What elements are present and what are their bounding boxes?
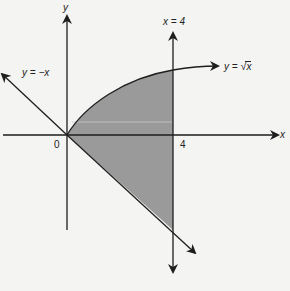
sqrt-label-prefix: y =: [224, 61, 240, 72]
sqrt-curve-label: y = √x: [224, 61, 251, 72]
y-axis-label: y: [63, 3, 68, 13]
origin-label: 0: [54, 140, 60, 150]
sqrt-label-radicand: x: [245, 61, 251, 72]
region-diagram: y x 0 4 x = 4 y = −x y = √x: [0, 0, 290, 291]
neg-line-label: y = −x: [22, 68, 49, 78]
diagram-graphics: [0, 0, 290, 291]
line-y-neg-x-upper: [2, 74, 67, 135]
tick-label-4: 4: [180, 140, 186, 150]
x-axis-label: x: [280, 130, 285, 140]
vertical-line-label: x = 4: [163, 17, 185, 27]
